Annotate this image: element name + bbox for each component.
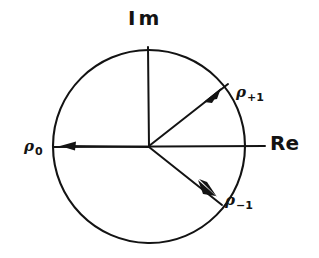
rho-symbol-minus1: ρ xyxy=(225,191,235,209)
rho-symbol-plus1: ρ xyxy=(236,83,246,101)
vector-rho-zero xyxy=(60,142,149,151)
label-rho-zero: ρ0 xyxy=(24,136,43,158)
vector-rho-minus1 xyxy=(149,147,222,205)
label-rho-minus1: ρ−1 xyxy=(225,190,253,212)
vector-rho-plus1 xyxy=(149,84,228,146)
rho-subscript-zero: 0 xyxy=(34,145,43,158)
imaginary-axis-label: Im xyxy=(128,6,162,30)
label-rho-plus1: ρ+1 xyxy=(236,82,264,104)
rho-subscript-minus1: −1 xyxy=(235,199,253,212)
unit-circle-diagram xyxy=(0,0,319,258)
rho-subscript-plus1: +1 xyxy=(246,91,264,104)
imaginary-axis xyxy=(148,47,149,147)
rho-symbol-zero: ρ xyxy=(24,137,34,155)
complex-plane-figure: Im Re ρ+1 ρ−1 ρ0 xyxy=(0,0,319,258)
real-axis-label: Re xyxy=(270,131,299,155)
